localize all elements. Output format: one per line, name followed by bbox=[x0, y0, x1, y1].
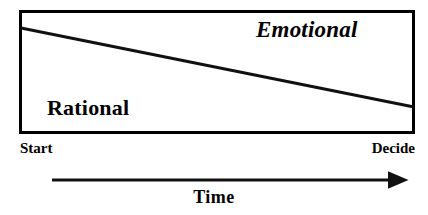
axis-caption-time: Time bbox=[0, 188, 428, 206]
axis-label-start: Start bbox=[20, 141, 53, 156]
axis-label-decide: Decide bbox=[372, 141, 415, 156]
region-label-emotional: Emotional bbox=[256, 18, 358, 41]
diagram-canvas: Emotional Rational Start Decide Time bbox=[0, 0, 428, 215]
region-label-rational: Rational bbox=[47, 97, 129, 119]
